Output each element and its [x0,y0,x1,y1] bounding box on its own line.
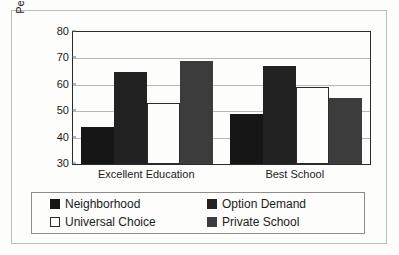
legend-swatch-icon [50,199,60,209]
figure: Percent Satisfied 304050607080 Excellent… [0,0,399,255]
bar[interactable] [147,103,180,164]
x-axis-label: Excellent Education [72,168,221,180]
y-tick-label: 50 [39,104,69,116]
plot-area [72,31,371,165]
legend-item-label: Private School [222,215,299,229]
y-tick-mark [72,110,76,111]
legend-swatch-icon [207,199,217,209]
bar-group [73,32,222,164]
y-tick-label: 60 [39,78,69,90]
y-axis-title: Percent Satisfied [14,0,30,28]
y-axis-tick-labels: 304050607080 [39,31,69,163]
legend-item[interactable]: Neighborhood [50,197,207,211]
y-tick-label: 80 [39,25,69,37]
bar[interactable] [180,61,213,164]
legend-item-label: Universal Choice [65,215,156,229]
bar[interactable] [329,98,362,164]
legend-item-label: Option Demand [222,197,306,211]
y-tick-mark [72,83,76,84]
x-axis-category-labels: Excellent EducationBest School [72,168,369,180]
y-tick-mark [72,163,76,164]
x-axis-label: Best School [221,168,370,180]
bar-group [222,32,371,164]
y-tick-label: 70 [39,51,69,63]
bar[interactable] [263,66,296,164]
bar[interactable] [114,72,147,164]
y-tick-mark [72,136,76,137]
y-tick-label: 40 [39,131,69,143]
legend-item[interactable]: Option Demand [207,197,364,211]
chart-legend: NeighborhoodOption DemandUniversal Choic… [31,192,365,234]
y-tick-mark [72,31,76,32]
legend-item-label: Neighborhood [65,197,140,211]
bar-series-container [73,32,370,164]
legend-swatch-icon [207,217,217,227]
legend-item[interactable]: Universal Choice [50,215,207,229]
legend-swatch-icon [50,217,60,227]
bar[interactable] [81,127,114,164]
bar[interactable] [230,114,263,164]
bar[interactable] [296,87,329,164]
legend-item[interactable]: Private School [207,215,364,229]
y-tick-label: 30 [39,157,69,169]
bar-chart: Percent Satisfied 304050607080 Excellent… [20,10,372,170]
y-tick-mark [72,57,76,58]
